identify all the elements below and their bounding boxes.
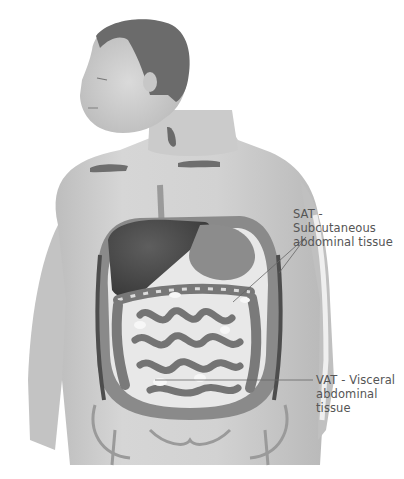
sat-label: SAT - Subcutaneous abdominal tissue (293, 207, 403, 249)
vat-label-line2: abdominal (316, 387, 404, 401)
abdominal-cavity (97, 216, 281, 420)
vat-label-line1: VAT - Visceral (316, 373, 404, 387)
sat-label-line2: abdominal tissue (293, 235, 403, 249)
vat-label-line3: tissue (316, 401, 404, 415)
sat-label-line1: SAT - Subcutaneous (293, 207, 403, 235)
vat-label: VAT - Visceral abdominal tissue (316, 373, 404, 415)
